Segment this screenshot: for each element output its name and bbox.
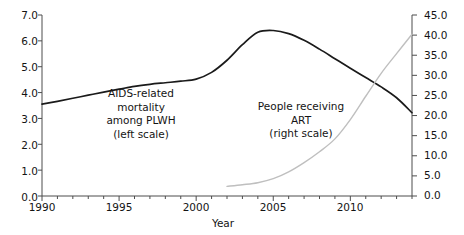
chart-figure: 7.0 6.0 5.0 4.0 3.0 2.0 1.0 0.0 45.0 40.…	[0, 0, 464, 235]
left-axis-tick-7: 7.0	[8, 10, 38, 21]
x-axis-tick-1995: 1995	[99, 202, 139, 213]
annotation-mortality-line4: (left scale)	[86, 128, 196, 142]
x-axis-tick-1990: 1990	[22, 202, 62, 213]
annotation-mortality-line1: AIDS-related	[86, 87, 196, 101]
x-axis-tick-2000: 2000	[176, 202, 216, 213]
left-axis-tick-5: 5.0	[8, 62, 38, 73]
right-axis-tick-8: 40.0	[424, 30, 458, 41]
right-axis-tick-4: 20.0	[424, 110, 458, 121]
left-axis-tick-2: 2.0	[8, 140, 38, 151]
right-axis-tick-9: 45.0	[424, 10, 458, 21]
annotation-mortality-line3: among PLWH	[86, 114, 196, 128]
right-axis-tick-6: 30.0	[424, 70, 458, 81]
right-axis-tick-1: 5.0	[424, 170, 458, 181]
right-axis-tick-0: 0.0	[424, 190, 458, 201]
x-axis-title: Year	[193, 217, 253, 229]
chart-plot-area	[0, 0, 464, 235]
annotation-mortality-line2: mortality	[86, 101, 196, 115]
left-axis-tick-6: 6.0	[8, 36, 38, 47]
annotation-art: People receiving ART (right scale)	[245, 100, 357, 141]
annotation-art-line1: People receiving	[245, 100, 357, 114]
left-axis-tick-1: 1.0	[8, 166, 38, 177]
right-axis-tick-5: 25.0	[424, 90, 458, 101]
annotation-art-line2: ART	[245, 114, 357, 128]
right-axis-tick-7: 35.0	[424, 50, 458, 61]
x-axis-tick-2010: 2010	[330, 202, 370, 213]
left-axis-tick-4: 4.0	[8, 88, 38, 99]
x-axis-tick-2005: 2005	[253, 202, 293, 213]
left-axis-tick-3: 3.0	[8, 114, 38, 125]
right-axis-tick-2: 10.0	[424, 150, 458, 161]
annotation-art-line3: (right scale)	[245, 127, 357, 141]
right-axis-tick-3: 15.0	[424, 130, 458, 141]
annotation-mortality: AIDS-related mortality among PLWH (left …	[86, 87, 196, 141]
